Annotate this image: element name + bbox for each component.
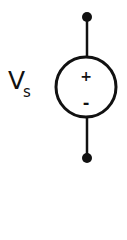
plus-sign: + — [80, 68, 92, 84]
bottom-terminal-node — [82, 153, 92, 163]
minus-sign: - — [83, 93, 90, 112]
source-label-subscript: s — [23, 84, 31, 100]
